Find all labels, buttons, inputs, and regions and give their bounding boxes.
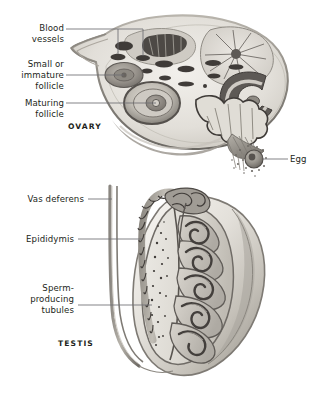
label-epididymis: Epididymis <box>6 234 74 245</box>
label-egg: Egg <box>290 154 310 165</box>
label-sperm-producing-tubules: Sperm- producing tubules <box>6 283 74 317</box>
follicle-dot-h <box>203 84 207 88</box>
follicle-dot-d <box>159 76 171 81</box>
caption-ovary: OVARY <box>68 122 102 131</box>
corpus-luteum-core <box>231 49 241 59</box>
label-small-or-immature-follicle: Small or immature follicle <box>2 59 64 93</box>
label-blood-vessels: Blood vessels <box>2 23 64 45</box>
blood-vessel-dot-1 <box>111 54 126 60</box>
caption-testis: TESTIS <box>58 339 94 348</box>
follicle-dot-a <box>155 61 173 68</box>
label-maturing-follicle: Maturing follicle <box>2 98 64 120</box>
follicle-dot-e <box>178 81 194 86</box>
follicle-dot-f <box>205 60 221 66</box>
follicle-dot-g <box>208 73 221 78</box>
label-vas-deferens: Vas deferens <box>6 194 84 205</box>
follicle-dot-b <box>178 66 195 72</box>
anatomy-figure: Blood vessels Small or immature follicle… <box>0 0 311 408</box>
testis-illustration <box>110 186 265 375</box>
follicle-dot-i <box>229 64 244 70</box>
released-egg-nucleus <box>249 154 256 161</box>
ovary-illustration <box>71 15 288 176</box>
